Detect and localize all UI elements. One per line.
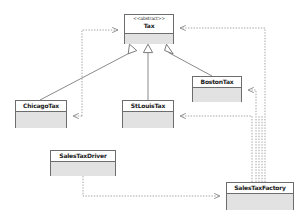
class-node-tax[interactable]: <<abstract>> Tax <box>124 14 174 44</box>
edge-chicagotax-depends-tax <box>82 30 118 116</box>
class-body-chicagotax <box>16 112 66 128</box>
class-header-chicagotax: ChicagoTax <box>16 101 66 112</box>
class-body-salestaxfactory <box>227 194 293 210</box>
class-header-stlouistax: StLouisTax <box>123 101 173 112</box>
class-node-chicagotax[interactable]: ChicagoTax <box>15 100 67 128</box>
class-node-stlouistax[interactable]: StLouisTax <box>122 100 174 128</box>
edge-chicagotax-generalizes-tax <box>40 44 137 100</box>
edge-salestaxdriver-depends-salestaxfactory <box>83 176 220 196</box>
edge-stlouistax-generalizes-tax <box>143 44 152 100</box>
class-header-salestaxdriver: SalesTaxDriver <box>51 151 115 162</box>
class-header-bostontax: BostonTax <box>193 77 241 88</box>
class-body-tax <box>125 34 173 44</box>
class-header-tax: <<abstract>> Tax <box>125 15 173 34</box>
edge-salestaxfactory-depends-stlouistax <box>180 116 252 182</box>
class-body-salestaxdriver <box>51 162 115 176</box>
class-body-stlouistax <box>123 112 173 128</box>
class-node-bostontax[interactable]: BostonTax <box>192 76 242 102</box>
edge-bostontax-generalizes-tax <box>165 44 212 76</box>
class-name-tax: Tax <box>125 22 173 29</box>
uml-class-diagram: <<abstract>> Tax BostonTax ChicagoTax St… <box>0 0 306 218</box>
class-node-salestaxdriver[interactable]: SalesTaxDriver <box>50 150 116 176</box>
rail-bundle-strands <box>259 116 262 182</box>
class-header-salestaxfactory: SalesTaxFactory <box>227 183 293 194</box>
class-body-bostontax <box>193 88 241 102</box>
class-node-salestaxfactory[interactable]: SalesTaxFactory <box>226 182 294 210</box>
